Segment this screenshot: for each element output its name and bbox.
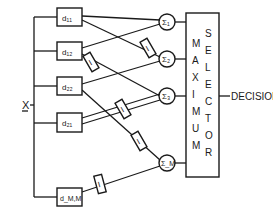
svg-text:d₂₁: d₂₁ (62, 119, 73, 128)
detector-1: d₁₁ (57, 8, 82, 26)
selector-letter: A (192, 55, 199, 66)
summer-1: Σ₁ (159, 14, 175, 30)
svg-text:d₁₁: d₁₁ (62, 14, 72, 23)
selector-letter: S (205, 28, 212, 39)
selector-letter: X (192, 72, 199, 83)
delay-element-4: I (131, 131, 147, 151)
detector-4: d₂₁ (57, 113, 82, 132)
selector-letter: I (192, 89, 195, 100)
selector-letter: E (205, 45, 212, 56)
svg-text:d_M,M: d_M,M (60, 195, 82, 203)
block-diagram: X d₁₁ d₁₂ d₂₂ d₂₁ d_ (0, 0, 273, 215)
selector-letter: L (205, 62, 211, 73)
output-label: DECISION (231, 91, 273, 102)
svg-text:Σ_M: Σ_M (161, 160, 175, 168)
selector-letter: M (192, 38, 200, 49)
detector-5: d_M,M (57, 188, 82, 206)
selector-letter: R (205, 147, 212, 158)
svg-text:Σ₂: Σ₂ (162, 55, 170, 64)
svg-text:Σ₃: Σ₃ (162, 92, 170, 101)
selector-letter: C (205, 96, 212, 107)
svg-text:Σ₁: Σ₁ (162, 18, 170, 27)
delay-element-5: I (94, 174, 106, 193)
selector-letter: M (192, 140, 200, 151)
selector-letter: U (192, 123, 199, 134)
maximum-selector-box (186, 13, 219, 177)
diagram: X d₁₁ d₁₂ d₂₂ d₂₁ d_ (0, 0, 273, 215)
summer-2: Σ₂ (159, 51, 175, 67)
summer-3: Σ₃ (159, 88, 175, 104)
svg-text:d₁₂: d₁₂ (62, 48, 72, 57)
selector-letter: E (205, 79, 212, 90)
summer-m: Σ_M (159, 155, 175, 171)
selector-letter: M (192, 106, 200, 117)
detector-2: d₁₂ (57, 42, 82, 60)
input-label: X (22, 99, 30, 111)
selector-letter: O (205, 130, 213, 141)
selector-letter: T (205, 113, 211, 124)
svg-text:d₂₂: d₂₂ (62, 83, 73, 92)
detector-3: d₂₂ (57, 77, 82, 95)
